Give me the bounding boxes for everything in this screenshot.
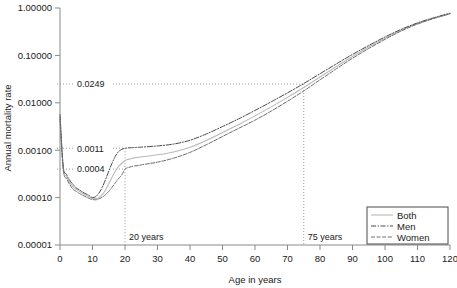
y-tick-label: 0.01000	[18, 97, 52, 108]
y-axis-title: Annual mortality rate	[2, 84, 13, 171]
y-tick-label: 1.00000	[18, 2, 52, 13]
x-tick-label: 50	[217, 253, 228, 264]
data-series	[60, 13, 450, 200]
reference-vline-label: 20 years	[129, 232, 164, 242]
chart-canvas: Annual mortality rate 1.000000.100000.01…	[0, 0, 457, 288]
x-tick-label: 100	[377, 253, 393, 264]
annotation-value-label: 0.0249	[77, 79, 105, 89]
x-tick-label: 110	[410, 253, 425, 264]
y-tick-label: 0.10000	[18, 50, 52, 61]
legend-label-women[interactable]: Women	[397, 232, 430, 243]
y-tick-label: 0.00100	[18, 145, 52, 156]
annotation-value-label: 0.0004	[77, 164, 105, 174]
reference-vline-label: 75 years	[308, 232, 343, 242]
y-tick-label: 0.00001	[18, 239, 52, 250]
annotation-value-label: 0.0011	[77, 144, 104, 154]
annotation-labels: 0.02490.00110.0004	[77, 79, 105, 174]
x-tick-label: 120	[442, 253, 457, 264]
x-tick-label: 90	[347, 253, 358, 264]
mortality-rate-chart: Annual mortality rate 1.000000.100000.01…	[0, 0, 457, 288]
x-tick-label: 80	[315, 253, 326, 264]
legend-label-both[interactable]: Both	[397, 210, 417, 221]
x-tick-label: 60	[250, 253, 261, 264]
legend-label-men[interactable]: Men	[397, 221, 415, 232]
x-tick-label: 70	[282, 253, 293, 264]
reference-line-labels: 20 years75 years	[129, 232, 343, 242]
x-tick-label: 20	[120, 253, 131, 264]
x-tick-label: 0	[57, 253, 62, 264]
x-axis-ticks: 0102030405060708090100110120	[57, 245, 457, 264]
series-line-both	[60, 14, 450, 199]
chart-legend[interactable]: BothMenWomen	[367, 207, 448, 244]
series-line-men	[60, 13, 450, 197]
x-tick-label: 10	[87, 253, 98, 264]
y-tick-label: 0.00010	[18, 192, 52, 203]
x-tick-label: 40	[185, 253, 196, 264]
y-axis-title-text: Annual mortality rate	[2, 84, 13, 171]
x-tick-label: 30	[152, 253, 163, 264]
series-line-women	[60, 14, 450, 200]
y-axis-ticks: 1.000000.100000.010000.001000.000100.000…	[18, 2, 60, 250]
x-axis-title-text: Age in years	[229, 274, 282, 285]
